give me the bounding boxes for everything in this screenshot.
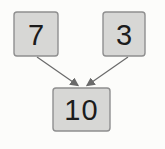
diagram-canvas: 7 3 10 — [0, 0, 165, 149]
addend-left-label: 7 — [28, 19, 45, 51]
sum-label: 10 — [64, 94, 98, 126]
addend-right-label: 3 — [116, 19, 133, 51]
addition-tree-diagram: 7 3 10 — [0, 0, 165, 149]
